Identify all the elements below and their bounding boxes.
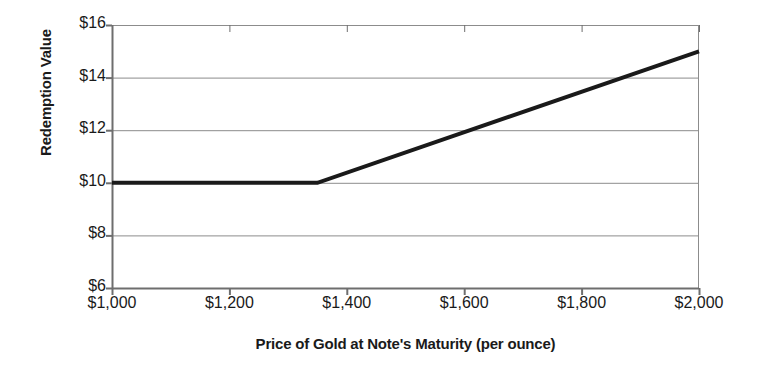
gridlines-group [112, 25, 699, 289]
plot-area [0, 0, 758, 373]
tick-marks-group [106, 25, 700, 295]
data-series-line [112, 51, 699, 183]
x-axis-title: Price of Gold at Note's Maturity (per ou… [112, 335, 699, 352]
chart-container: Redemption Value $16 $14 $12 $10 $8 $6 $… [0, 0, 758, 373]
